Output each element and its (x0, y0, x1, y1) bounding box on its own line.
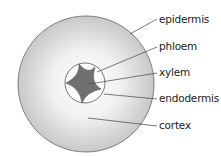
label-cortex: cortex (159, 119, 191, 131)
label-phloem: phloem (159, 40, 197, 52)
label-xylem: xylem (159, 66, 190, 78)
label-endodermis: endodermis (159, 92, 219, 104)
label-epidermis: epidermis (159, 13, 209, 25)
